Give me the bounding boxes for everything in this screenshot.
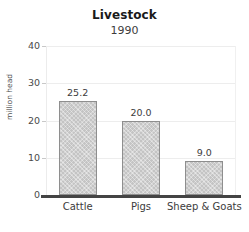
bar-value-label: 20.0 [111, 107, 171, 118]
bar-value-label: 9.0 [174, 147, 234, 158]
bar-pigs [122, 121, 160, 196]
bar-sheep-goats [185, 161, 223, 195]
chart-title: Livestock [0, 8, 249, 22]
gridline [46, 46, 236, 47]
x-tick-label: Sheep & Goats [164, 200, 244, 213]
y-tick-label: 0 [12, 190, 40, 200]
y-tick-label: 10 [12, 153, 40, 163]
y-axis-label: million head [4, 47, 15, 147]
gridline [46, 83, 236, 84]
bar-cattle [59, 101, 97, 195]
y-tick-label: 40 [12, 41, 40, 51]
livestock-bar-chart: Livestock 1990 million head 010203040 25… [0, 0, 249, 232]
x-axis-line [41, 195, 241, 198]
chart-subtitle: 1990 [0, 24, 249, 37]
y-tick-label: 20 [12, 116, 40, 126]
plot-area [46, 46, 236, 195]
bar-value-label: 25.2 [48, 87, 108, 98]
y-tick-label: 30 [12, 78, 40, 88]
